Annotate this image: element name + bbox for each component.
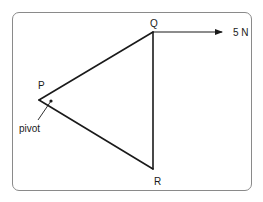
vertex-label-q: Q (150, 18, 158, 29)
pivot-label: pivot (19, 123, 40, 134)
force-label: 5 N (233, 27, 249, 38)
vertex-label-p: P (38, 80, 45, 91)
edge-pq (39, 32, 153, 100)
vertex-label-r: R (154, 176, 161, 187)
triangle-diagram: P Q R 5 N pivot (0, 0, 263, 202)
edge-rp (39, 100, 153, 169)
